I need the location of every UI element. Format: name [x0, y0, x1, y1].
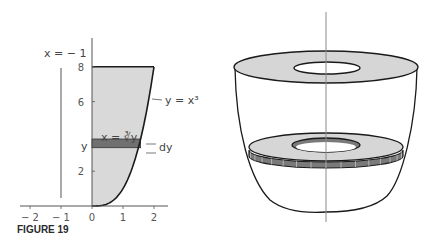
top-washer-hole: [294, 62, 360, 74]
strip-y-label: y: [81, 140, 88, 153]
curve-label: y = x³: [165, 94, 199, 107]
figure-canvas: − 2− 1012 268 x = − 1 y = x³ x = ∛y y dy…: [0, 0, 430, 243]
figure-caption: FIGURE 19: [17, 224, 69, 235]
dy-label: dy: [159, 141, 173, 154]
x-tick-label: 0: [89, 212, 95, 223]
x-tick-label: − 1: [52, 212, 70, 223]
right-panel: [234, 12, 418, 222]
x-tick-label: − 2: [21, 212, 39, 223]
curve-label-leader: [152, 99, 162, 100]
y-tick-label: 2: [78, 166, 84, 177]
strip-x-label: x = ∛y: [101, 130, 138, 144]
rotation-axis-label: x = − 1: [44, 47, 86, 60]
y-tick-label: 8: [78, 62, 84, 73]
x-tick-label: 1: [120, 212, 126, 223]
y-tick-label: 6: [78, 97, 84, 108]
x-ticks: − 2− 1012: [21, 206, 157, 223]
x-tick-label: 2: [151, 212, 157, 223]
left-panel: − 2− 1012 268 x = − 1 y = x³ x = ∛y y dy…: [17, 38, 199, 235]
